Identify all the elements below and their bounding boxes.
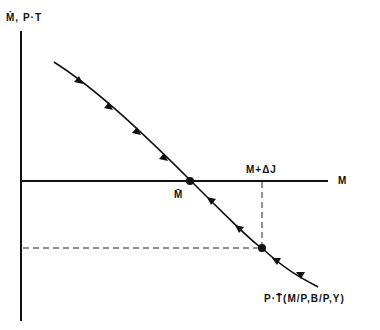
y-axis-label: Ṁ, P·T bbox=[6, 12, 42, 23]
shock-point bbox=[258, 244, 266, 252]
tax-curve bbox=[54, 62, 318, 287]
equilibrium-point bbox=[186, 177, 194, 185]
shock-label: M+ΔJ bbox=[246, 164, 277, 175]
diagram-canvas bbox=[0, 0, 380, 330]
arrow-icons-upper bbox=[74, 76, 168, 161]
arrow-icons-lower bbox=[272, 258, 305, 279]
x-axis-label: M bbox=[338, 175, 347, 186]
curve-label: P·T̄(M/P,B/P,Y) bbox=[264, 293, 345, 304]
equilibrium-label: M̄ bbox=[174, 189, 183, 200]
